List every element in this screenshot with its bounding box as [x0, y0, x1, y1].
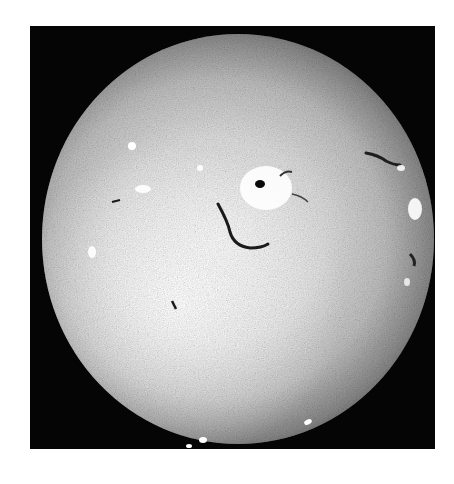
- east-limb-bright-region: [408, 198, 422, 220]
- northeast-filament: [366, 153, 400, 165]
- central-active-region: [240, 166, 308, 210]
- page: [0, 0, 454, 484]
- south-limb-bright-spots: [186, 418, 313, 448]
- solar-image-frame: [30, 26, 435, 449]
- solar-features: [30, 26, 435, 449]
- curved-filament: [218, 204, 268, 248]
- west-bright-spots: [88, 142, 203, 258]
